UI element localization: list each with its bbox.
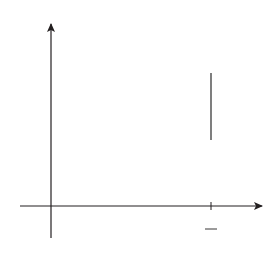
area-between-curves-diagram — [0, 0, 268, 254]
